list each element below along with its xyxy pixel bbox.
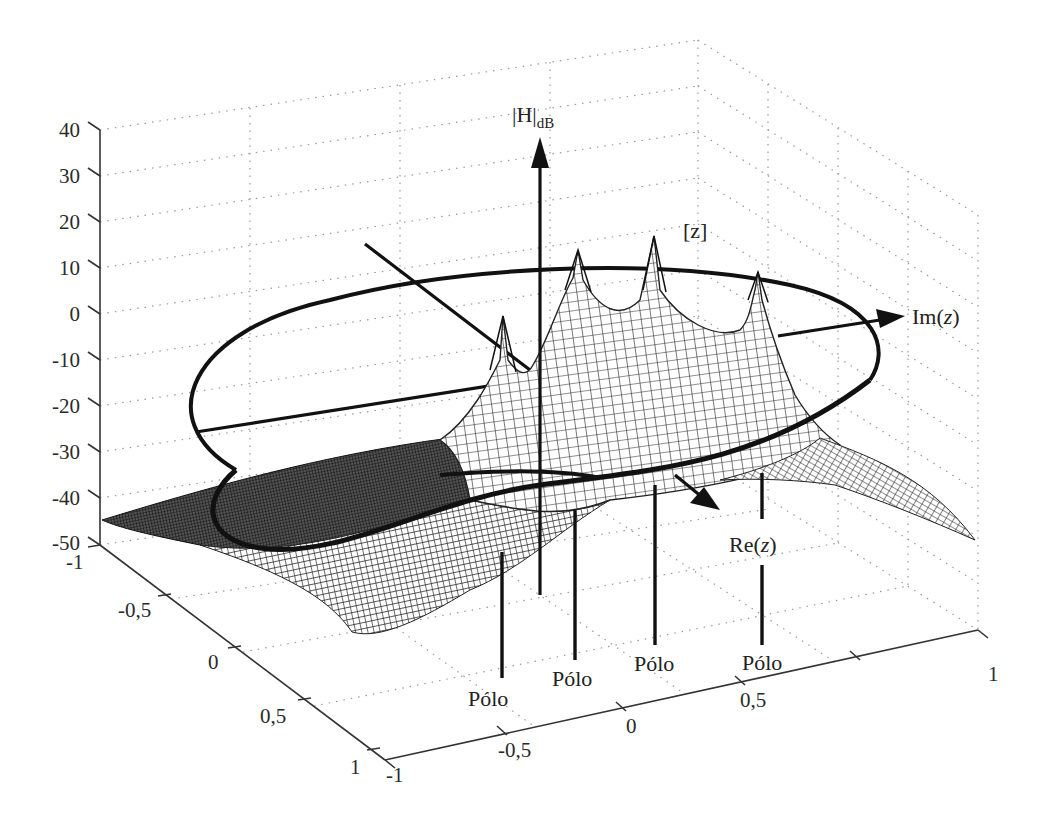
z-tick-minus40: -40: [20, 488, 80, 509]
pole-label-3: Pólo: [634, 653, 674, 675]
z-tick-30: 30: [20, 166, 80, 187]
im-axis-label: Im(z): [912, 306, 960, 328]
im-tick-minus05: -0,5: [498, 740, 531, 761]
z-tick-minus20: -20: [20, 396, 80, 417]
im-tick-0: 0: [626, 716, 637, 737]
magnitude-axis-label: |H|dB: [512, 104, 554, 126]
magnitude-arrow-head: [531, 137, 549, 168]
z-tick-minus30: -30: [20, 442, 80, 463]
pole-label-4: Pólo: [742, 652, 782, 674]
re-axis-label: Re(z): [729, 534, 777, 556]
z-tick-20: 20: [20, 212, 80, 233]
re-tick-0: 0: [208, 652, 219, 673]
re-tick-05: 0,5: [260, 706, 286, 727]
re-tick-1: 1: [350, 757, 361, 778]
pole-label-1: Pólo: [468, 688, 508, 710]
z-plane-label: [z]: [683, 220, 707, 242]
im-tick-minus1: -1: [386, 765, 404, 786]
z-tick-0: 0: [20, 304, 80, 325]
im-tick-05: 0,5: [740, 690, 766, 711]
z-tick-10: 10: [20, 258, 80, 279]
im-arrow-head: [876, 309, 905, 328]
im-tick-1: 1: [988, 664, 999, 685]
re-tick-minus05: -0,5: [118, 600, 151, 621]
z-tick-minus10: -10: [20, 350, 80, 371]
re-tick-minus1: -1: [66, 552, 84, 573]
pole-label-2: Pólo: [552, 668, 592, 690]
z-tick-40: 40: [20, 120, 80, 141]
